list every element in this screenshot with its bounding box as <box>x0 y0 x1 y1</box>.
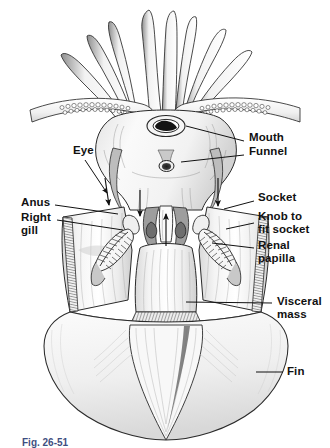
label-socket: Socket <box>258 191 296 204</box>
label-anus: Anus <box>21 196 50 209</box>
label-knob-to-fit-socket: Knob to fit socket <box>258 210 310 235</box>
label-right-gill: Right gill <box>21 211 51 236</box>
label-eye: Eye <box>73 144 94 157</box>
head-group <box>96 110 237 216</box>
figure-caption: Fig. 26-51 <box>22 437 68 448</box>
label-renal-papilla: Renal papilla <box>258 239 295 264</box>
label-visceral-mass: Visceral mass <box>277 295 322 320</box>
mouth-structure <box>147 116 185 137</box>
label-fin: Fin <box>287 365 305 378</box>
label-mouth: Mouth <box>249 131 284 144</box>
label-funnel: Funnel <box>249 145 287 158</box>
